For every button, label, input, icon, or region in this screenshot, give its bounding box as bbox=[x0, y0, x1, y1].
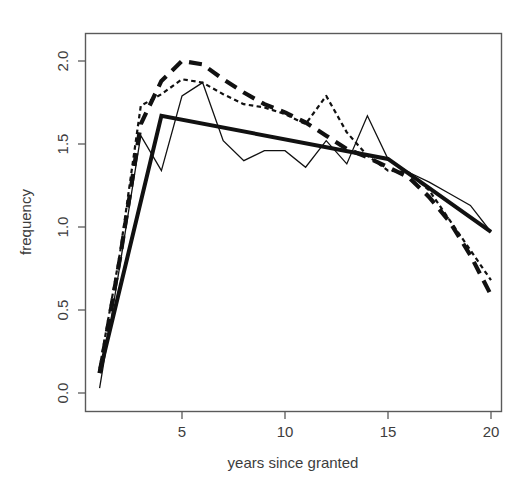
x-axis-tick-labels: 5 10 15 20 bbox=[178, 423, 500, 440]
y-tick-label-2: 1.0 bbox=[54, 217, 71, 238]
chart-figure: 0.0 0.5 1.0 1.5 2.0 5 10 15 20 years sin… bbox=[0, 0, 531, 483]
y-tick-label-1: 0.5 bbox=[54, 300, 71, 321]
y-axis-title: frequency bbox=[17, 189, 34, 255]
x-axis-title: years since granted bbox=[228, 454, 359, 471]
y-tick-label-3: 1.5 bbox=[54, 134, 71, 155]
x-axis-ticks bbox=[182, 412, 491, 420]
x-tick-label-1: 10 bbox=[277, 423, 294, 440]
series-piecewise-linear-fit bbox=[100, 116, 491, 373]
x-tick-label-0: 5 bbox=[178, 423, 186, 440]
plot-frame bbox=[86, 34, 502, 412]
y-tick-label-4: 2.0 bbox=[54, 51, 71, 72]
y-tick-label-0: 0.0 bbox=[54, 383, 71, 404]
series-layer bbox=[100, 61, 491, 388]
y-axis-tick-labels: 0.0 0.5 1.0 1.5 2.0 bbox=[54, 51, 71, 404]
line-chart: 0.0 0.5 1.0 1.5 2.0 5 10 15 20 years sin… bbox=[0, 0, 531, 483]
x-tick-label-3: 20 bbox=[483, 423, 500, 440]
series-dashed-fit bbox=[100, 61, 491, 373]
y-axis-ticks bbox=[78, 61, 86, 393]
x-tick-label-2: 15 bbox=[380, 423, 397, 440]
